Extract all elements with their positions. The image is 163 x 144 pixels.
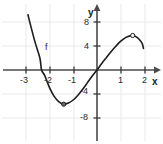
function-graph: y x f 8 4 -4 -8 -3 -2 -1 1 2 xyxy=(0,0,163,144)
local-maximum-marker xyxy=(131,33,135,37)
x-tick-label-2: 2 xyxy=(142,76,147,85)
x-tick-label-neg3: -3 xyxy=(20,76,28,85)
local-minimum-marker xyxy=(62,102,66,106)
y-tick-label-4: 4 xyxy=(84,42,89,51)
plot-area xyxy=(0,0,163,144)
x-tick-label-neg1: -1 xyxy=(68,76,76,85)
x-axis-label: x xyxy=(152,77,158,87)
curve-label-f: f xyxy=(45,43,48,52)
y-tick-label-8: 8 xyxy=(84,18,89,27)
x-tick-label-neg2: -2 xyxy=(44,76,52,85)
y-tick-label-neg4: -4 xyxy=(80,87,88,96)
x-tick-label-1: 1 xyxy=(118,76,123,85)
y-tick-label-neg8: -8 xyxy=(80,113,88,122)
